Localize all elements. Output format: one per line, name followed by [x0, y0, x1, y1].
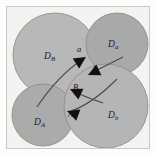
disk-Db-label-subscript: b	[115, 114, 119, 121]
disk-Da-label-subscript: a	[115, 43, 119, 50]
figure-outer-frame: DBDaDADbabBA	[0, 0, 156, 155]
disk-DA-label-subscript: A	[40, 121, 46, 128]
disk-diagram-svg: DBDaDADbabBA	[7, 7, 149, 148]
disk-Db	[64, 64, 148, 148]
figure-plot-area: DBDaDADbabBA	[6, 6, 150, 149]
label-A: A	[67, 109, 74, 119]
disk-DB-label-subscript: B	[51, 55, 55, 62]
label-a: a	[77, 44, 81, 54]
label-b: b	[93, 64, 97, 74]
disks-layer	[12, 13, 148, 148]
disk-Db-shape	[64, 64, 148, 148]
label-B: B	[73, 82, 78, 92]
figure-root: DBDaDADbabBA	[0, 0, 156, 155]
